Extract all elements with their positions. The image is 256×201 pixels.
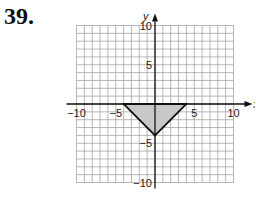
- y-tick-label: 10: [140, 20, 152, 32]
- x-tick-label: −10: [67, 107, 86, 119]
- x-tick-label: −5: [109, 107, 122, 119]
- x-axis-arrow-icon: [245, 101, 253, 107]
- x-tick-label: 10: [227, 107, 239, 119]
- y-tick-label: 5: [146, 59, 152, 71]
- x-tick-label: 5: [191, 107, 197, 119]
- y-tick-label: −10: [133, 177, 152, 189]
- coordinate-plane: xy−10−5510105−5−10: [0, 0, 255, 201]
- y-tick-label: −5: [139, 137, 152, 149]
- y-axis-arrow-icon: [152, 14, 158, 22]
- x-axis-label: x: [253, 98, 256, 110]
